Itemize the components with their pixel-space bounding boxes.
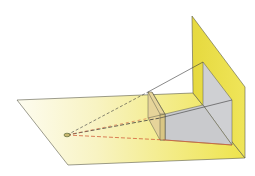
eye-point-icon	[64, 133, 70, 137]
perspective-diagram	[0, 0, 255, 176]
